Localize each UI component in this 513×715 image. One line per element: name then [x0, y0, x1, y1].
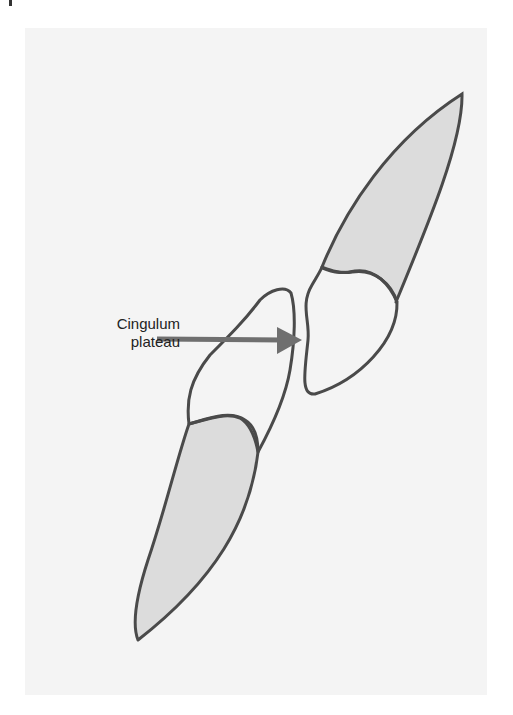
arrow-head: [277, 327, 302, 354]
label-line-2: plateau: [80, 333, 180, 351]
lower-tooth-crown: [135, 415, 258, 640]
label-line-1: Cingulum: [80, 315, 180, 333]
cingulum-plateau-label: Cingulum plateau: [80, 315, 180, 351]
tooth-diagram: [0, 0, 513, 715]
upper-tooth-root: [305, 267, 397, 394]
upper-tooth-crown: [322, 94, 462, 302]
